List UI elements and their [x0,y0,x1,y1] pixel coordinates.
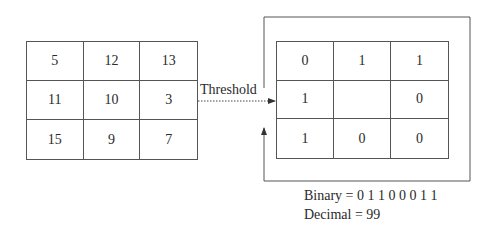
input-cell: 15 [27,120,84,159]
output-cell: 1 [277,81,334,120]
input-center-cell: 10 [84,81,141,120]
output-cell: 0 [334,119,391,158]
input-cell: 5 [27,42,84,81]
input-cell: 12 [84,42,141,81]
decimal-result-label: Decimal = 99 [304,207,380,223]
input-cell: 7 [140,120,197,159]
input-pixel-grid: 5 12 13 11 10 3 15 9 7 [26,41,198,160]
binary-result-label: Binary = 0 1 1 0 0 0 1 1 [304,188,438,204]
output-cell: 1 [277,119,334,158]
output-cell: 0 [391,81,448,120]
output-cell: 1 [334,42,391,81]
input-cell: 3 [140,81,197,120]
output-cell: 0 [277,42,334,81]
input-cell: 13 [140,42,197,81]
output-cell: 1 [391,42,448,81]
output-binary-grid: 0 1 1 1 0 1 0 0 [276,41,449,159]
input-cell: 11 [27,81,84,120]
threshold-label: Threshold [200,82,257,98]
output-cell: 0 [391,119,448,158]
output-center-cell [334,81,391,120]
input-cell: 9 [84,120,141,159]
